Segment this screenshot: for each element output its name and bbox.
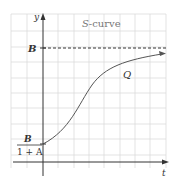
intercept-denominator: 1 + A	[17, 147, 43, 157]
s-curve	[43, 54, 162, 144]
figure-title: S-curve	[82, 18, 121, 29]
intercept-numerator: B	[23, 134, 32, 144]
curve-arrow-icon	[159, 51, 166, 56]
curve-label: Q	[123, 69, 131, 80]
s-curve-diagram: y t S-curve B Q B 1 + A	[0, 0, 174, 186]
x-axis-label: t	[162, 168, 166, 178]
asymptote-label: B	[27, 43, 36, 54]
x-axis-arrow-icon	[162, 160, 169, 165]
y-axis-label: y	[33, 12, 40, 22]
